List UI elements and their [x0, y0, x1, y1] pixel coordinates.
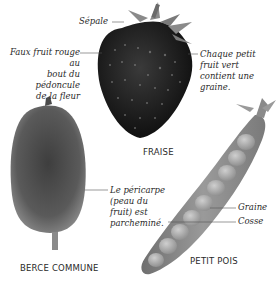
- pea-caption: PETIT POIS: [190, 256, 238, 266]
- illustration: [0, 0, 280, 286]
- achene-label: Chaque petit fruit vert contient une gra…: [200, 49, 280, 93]
- strawberry-caption: FRAISE: [143, 147, 174, 157]
- pericarp-label: Le péricarpe (peau du fruit) est parchem…: [110, 185, 190, 229]
- seed-label: Graine: [238, 202, 267, 213]
- false-fruit-label: Faux fruit rouge au bout du pédoncule de…: [0, 47, 80, 102]
- hogweed-figure: [11, 96, 86, 250]
- sepal-label: Sépale: [60, 16, 108, 27]
- pod-label: Cosse: [238, 216, 263, 227]
- strawberry-figure: [98, 2, 193, 138]
- hogweed-caption: BERCE COMMUNE: [20, 263, 99, 273]
